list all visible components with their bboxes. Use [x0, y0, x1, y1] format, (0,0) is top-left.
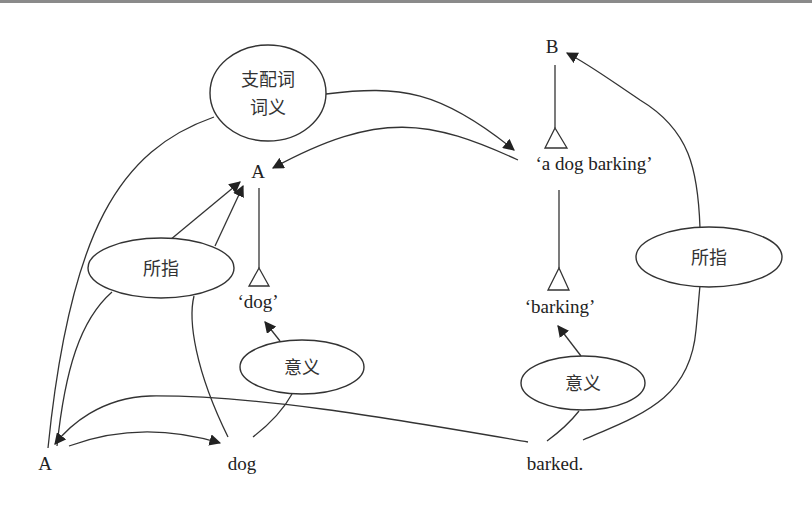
- referent-right-to-b-arrow: [567, 53, 700, 228]
- sense-left-label: 意义: [284, 357, 320, 378]
- phrase-triangle-icon: [545, 128, 567, 148]
- referent-right-node: 所指: [636, 227, 782, 287]
- phrase-to-top-a-arrow: [273, 127, 518, 168]
- dog-to-sense-left-line: [253, 394, 292, 437]
- barked-to-bottom-a-arrow: [55, 396, 528, 444]
- head-sense-label-line1: 支配词: [241, 69, 295, 90]
- head-sense-to-phrase-arrow: [326, 91, 514, 150]
- barking-triangle-icon: [548, 268, 569, 290]
- referent-left-to-top-a-arrow-1: [170, 182, 240, 240]
- referent-left-to-top-a-arrow-2: [215, 186, 243, 246]
- top-b-label: B: [546, 36, 559, 57]
- bottom-a-to-referent-left-line: [57, 292, 112, 446]
- sense-right-node: 意义: [521, 356, 645, 410]
- referent-right-label: 所指: [691, 247, 727, 268]
- phrase-meaning-label: ‘a dog barking’: [535, 153, 652, 174]
- top-a-label: A: [251, 161, 265, 182]
- referent-left-label: 所指: [143, 258, 179, 279]
- referent-left-node: 所指: [88, 238, 234, 298]
- head-sense-node: 支配词 词义: [210, 45, 326, 141]
- dog-to-referent-left-line: [192, 296, 228, 437]
- sense-left-to-dog-meaning-arrow: [265, 322, 280, 341]
- semantic-diagram: 支配词 词义 所指 意义 意义 所指 A B ‘dog’ ‘a dog bark…: [0, 0, 812, 508]
- barked-to-sense-right-line: [547, 411, 579, 441]
- head-sense-label-line2: 词义: [250, 97, 286, 118]
- bottom-a-to-dog-arrow: [69, 432, 220, 446]
- word-barked-label: barked.: [527, 453, 583, 474]
- dog-triangle-icon: [249, 268, 269, 286]
- barking-meaning-label: ‘barking’: [525, 296, 596, 317]
- bottom-a-label: A: [38, 453, 52, 474]
- sense-right-label: 意义: [565, 373, 601, 394]
- head-sense-ellipse: [210, 45, 326, 141]
- sense-left-node: 意义: [240, 340, 364, 394]
- sense-right-to-barking-meaning-arrow: [558, 326, 581, 356]
- dog-meaning-label: ‘dog’: [237, 291, 278, 312]
- word-dog-label: dog: [228, 453, 257, 474]
